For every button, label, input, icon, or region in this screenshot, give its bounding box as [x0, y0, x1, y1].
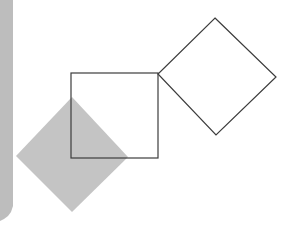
scan-edge-band-shape	[0, 0, 13, 221]
figure-canvas	[0, 0, 292, 232]
canvas-background	[0, 0, 292, 232]
geometry-figure	[0, 0, 292, 232]
